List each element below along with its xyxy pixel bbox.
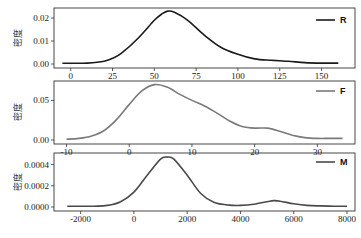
panel-m-x-axis: -200002000400060008000 xyxy=(70,211,356,224)
panel-f-legend: F xyxy=(316,86,346,96)
panel-r-density-line xyxy=(62,11,338,63)
legend-label-f: F xyxy=(340,86,346,96)
x-tick-label: 0 xyxy=(132,214,137,224)
panel-f-density-line xyxy=(67,84,343,139)
x-tick-label: 30 xyxy=(313,147,323,157)
panel-m: 0.00000.00020.0004 -20000200040006000800… xyxy=(12,153,357,224)
y-tick-label: 0.05 xyxy=(33,95,49,105)
panel-r-y-axis: 0.000.010.02 xyxy=(33,13,54,69)
y-tick-label: 0.02 xyxy=(33,13,49,23)
panel-r-legend: R xyxy=(316,15,347,25)
x-tick-label: -10 xyxy=(61,147,73,157)
x-tick-label: 2000 xyxy=(178,214,197,224)
panel-r-y-axis-label: 密度 xyxy=(12,29,23,47)
panel-f-frame xyxy=(54,81,355,144)
x-tick-label: 4000 xyxy=(231,214,250,224)
x-tick-label: 125 xyxy=(273,71,287,81)
panel-m-density-line xyxy=(67,157,347,206)
x-tick-label: 0 xyxy=(127,147,132,157)
panel-f-y-axis: 0.000.05 xyxy=(33,95,54,145)
panel-r: 0.000.010.02 0255075100125150 R 密度 xyxy=(12,8,355,81)
y-tick-label: 0.00 xyxy=(33,59,49,69)
panel-f-y-axis-label: 密度 xyxy=(12,103,23,121)
x-tick-label: 20 xyxy=(250,147,260,157)
x-tick-label: 150 xyxy=(315,71,329,81)
x-tick-label: -2000 xyxy=(70,214,91,224)
panel-f-x-axis: -100102030 xyxy=(61,144,323,157)
x-tick-label: 10 xyxy=(187,147,197,157)
panel-m-frame xyxy=(54,153,355,211)
x-tick-label: 25 xyxy=(108,71,118,81)
y-tick-label: 0.0004 xyxy=(24,160,49,170)
y-tick-label: 0.00 xyxy=(33,135,49,145)
density-chart-figure: 0.000.010.02 0255075100125150 R 密度 0.000… xyxy=(0,0,361,238)
legend-label-m: M xyxy=(340,157,348,167)
panel-m-y-axis-label: 密度 xyxy=(12,173,23,191)
x-tick-label: 50 xyxy=(150,71,160,81)
panel-f: 0.000.05 -100102030 F 密度 xyxy=(12,81,355,157)
x-tick-label: 75 xyxy=(192,71,202,81)
x-tick-label: 100 xyxy=(231,71,245,81)
panel-r-x-axis: 0255075100125150 xyxy=(68,68,328,81)
panel-m-y-axis: 0.00000.00020.0004 xyxy=(24,160,54,212)
x-tick-label: 6000 xyxy=(285,214,304,224)
panel-m-legend: M xyxy=(316,157,348,167)
panel-r-frame xyxy=(54,8,355,68)
x-tick-label: 8000 xyxy=(338,214,357,224)
y-tick-label: 0.0002 xyxy=(24,181,49,191)
y-tick-label: 0.01 xyxy=(33,36,49,46)
x-tick-label: 0 xyxy=(68,71,73,81)
y-tick-label: 0.0000 xyxy=(24,202,49,212)
legend-label-r: R xyxy=(340,15,347,25)
